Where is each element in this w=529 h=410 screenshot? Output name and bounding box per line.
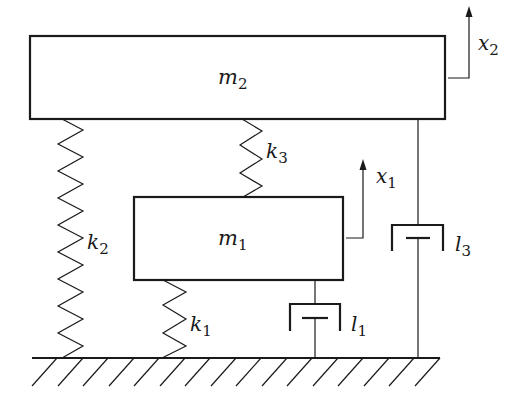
label-x1: x1	[376, 164, 397, 192]
label-k2: k2	[87, 230, 109, 258]
spring-k3	[240, 119, 262, 197]
arrowhead-x2-icon	[466, 6, 473, 17]
displacement-arrow-x1	[346, 165, 363, 238]
label-m2: m2	[218, 65, 247, 93]
label-l1: l1	[351, 312, 367, 340]
label-x2: x2	[478, 31, 499, 59]
spring-k2	[58, 119, 83, 358]
spring-k1	[162, 280, 186, 358]
damper-l1	[290, 280, 340, 358]
displacement-arrow-x2	[448, 12, 469, 78]
label-k3: k3	[266, 139, 288, 167]
label-l3: l3	[455, 232, 471, 260]
spring-damper-diagram: m2 m1 k2 k3 k1 l3 l1 x2 x1	[0, 0, 529, 410]
damper-l3	[392, 119, 443, 358]
label-k1: k1	[190, 312, 212, 340]
ground-hatching	[32, 358, 440, 386]
arrowhead-x1-icon	[360, 159, 367, 170]
label-m1: m1	[218, 226, 247, 254]
